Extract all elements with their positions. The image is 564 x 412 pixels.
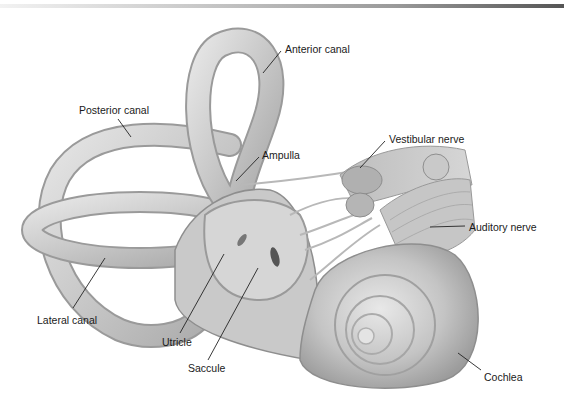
label-saccule: Saccule xyxy=(188,362,225,374)
label-anterior-canal: Anterior canal xyxy=(285,43,350,55)
label-utricle: Utricle xyxy=(162,336,192,348)
label-cochlea: Cochlea xyxy=(484,371,523,383)
label-vestibular-nerve: Vestibular nerve xyxy=(389,133,464,145)
label-auditory-nerve: Auditory nerve xyxy=(469,221,537,233)
inner-ear-illustration xyxy=(0,0,564,412)
label-lateral-canal: Lateral canal xyxy=(37,314,97,326)
label-posterior-canal: Posterior canal xyxy=(79,104,149,116)
anterior-canal-shape xyxy=(198,40,271,200)
label-ampulla: Ampulla xyxy=(262,149,300,161)
